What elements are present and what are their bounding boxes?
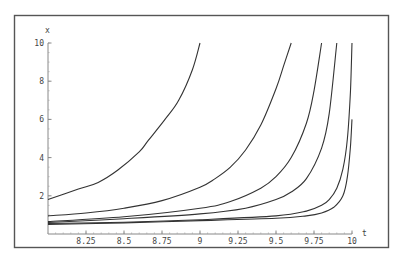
x-tick-label: 9.75 <box>304 237 323 246</box>
x-tick-label: 9.5 <box>269 237 284 246</box>
curve-5-line <box>48 43 352 224</box>
plot-frame <box>15 16 389 248</box>
y-tick-label: 10 <box>34 39 44 48</box>
x-axis-label: t <box>362 229 367 238</box>
y-tick-label: 2 <box>39 192 44 201</box>
x-tick-label: 8.5 <box>117 237 132 246</box>
x-tick-label: 9.25 <box>228 237 247 246</box>
curves <box>48 43 352 224</box>
y-tick-label: 4 <box>39 154 44 163</box>
y-axis-label: x <box>45 26 50 35</box>
curve-1-line <box>48 43 200 200</box>
x-tick-label: 9 <box>198 237 203 246</box>
axes: 8.258.58.7599.259.59.7510246810 <box>34 39 357 246</box>
y-tick-label: 6 <box>39 115 44 124</box>
x-tick-label: 10 <box>347 237 357 246</box>
curve-3-line <box>48 43 322 222</box>
curve-2-line <box>48 43 291 216</box>
chart-figure: 8.258.58.7599.259.59.7510246810 t x <box>0 0 404 263</box>
y-tick-label: 8 <box>39 77 44 86</box>
x-tick-label: 8.75 <box>152 237 171 246</box>
x-tick-label: 8.25 <box>76 237 95 246</box>
